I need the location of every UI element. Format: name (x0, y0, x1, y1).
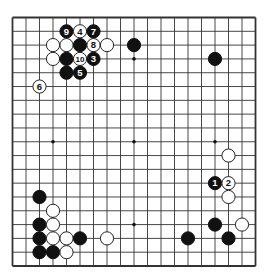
white-stone[interactable] (222, 190, 235, 203)
black-stone[interactable] (33, 246, 46, 259)
white-stone[interactable]: 2 (222, 177, 235, 190)
white-stone[interactable] (46, 204, 59, 217)
move-number-label: 5 (77, 67, 83, 78)
stone-disc (46, 246, 59, 259)
stone-disc (100, 232, 113, 245)
white-stone[interactable]: 4 (73, 25, 86, 38)
stone-disc (33, 246, 46, 259)
move-number-label: 6 (37, 81, 42, 92)
stone-disc (60, 66, 73, 79)
black-stone[interactable] (127, 39, 140, 52)
stone-disc (73, 39, 86, 52)
black-stone[interactable] (208, 52, 221, 65)
white-stone[interactable] (46, 232, 59, 245)
star-point (132, 140, 136, 144)
stone-disc (235, 218, 248, 231)
stone-disc (33, 218, 46, 231)
black-stone[interactable] (46, 246, 59, 259)
white-stone[interactable] (60, 232, 73, 245)
black-stone[interactable] (73, 232, 86, 245)
move-number-label: 8 (91, 39, 96, 50)
black-stone[interactable] (60, 52, 73, 65)
stone-disc (46, 52, 59, 65)
move-number-label: 1 (212, 177, 218, 188)
white-stone[interactable] (222, 149, 235, 162)
move-number-label: 9 (64, 26, 69, 37)
white-stone[interactable] (100, 232, 113, 245)
stone-disc (33, 190, 46, 203)
black-stone[interactable]: 1 (208, 177, 221, 190)
black-stone[interactable]: 7 (87, 25, 100, 38)
move-number-label: 4 (77, 26, 83, 37)
black-stone[interactable] (208, 218, 221, 231)
stone-disc (46, 232, 59, 245)
black-stone[interactable] (60, 66, 73, 79)
white-stone[interactable]: 8 (87, 39, 100, 52)
stone-disc (73, 232, 86, 245)
white-stone[interactable] (60, 246, 73, 259)
black-stone[interactable]: 3 (87, 52, 100, 65)
white-stone[interactable] (60, 39, 73, 52)
star-point (132, 223, 136, 227)
black-stone[interactable]: 5 (73, 66, 86, 79)
black-stone[interactable] (33, 190, 46, 203)
black-stone[interactable] (33, 232, 46, 245)
stone-disc (208, 218, 221, 231)
move-number-label: 2 (226, 177, 231, 188)
stone-disc (60, 246, 73, 259)
stone-disc (222, 149, 235, 162)
stone-disc (127, 39, 140, 52)
stone-disc (181, 232, 194, 245)
move-number-label: 10 (76, 55, 85, 64)
star-point (132, 57, 136, 61)
star-point (213, 140, 217, 144)
go-board[interactable]: 94781035612 (0, 0, 265, 275)
black-stone[interactable] (73, 39, 86, 52)
stone-disc (60, 52, 73, 65)
black-stone[interactable] (181, 232, 194, 245)
white-stone[interactable] (46, 39, 59, 52)
stone-disc (222, 190, 235, 203)
white-stone[interactable] (46, 218, 59, 231)
stone-disc (46, 39, 59, 52)
white-stone[interactable] (100, 39, 113, 52)
stone-disc (208, 52, 221, 65)
stone-disc (222, 232, 235, 245)
stone-disc (46, 218, 59, 231)
stone-disc (46, 204, 59, 217)
move-number-label: 7 (91, 26, 96, 37)
stone-disc (60, 232, 73, 245)
black-stone[interactable] (33, 218, 46, 231)
white-stone[interactable] (46, 52, 59, 65)
white-stone[interactable] (235, 218, 248, 231)
black-stone[interactable] (222, 232, 235, 245)
black-stone[interactable]: 9 (60, 25, 73, 38)
move-number-label: 3 (91, 53, 96, 64)
stone-disc (100, 39, 113, 52)
star-point (51, 140, 55, 144)
stone-disc (33, 232, 46, 245)
stone-disc (60, 39, 73, 52)
white-stone[interactable]: 6 (33, 80, 46, 93)
white-stone[interactable]: 10 (73, 52, 86, 65)
